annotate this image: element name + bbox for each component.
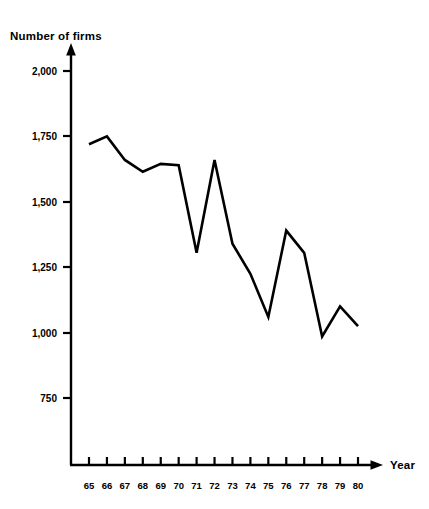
x-tick-label: 80 [353, 480, 364, 491]
x-tick-label: 68 [138, 480, 149, 491]
x-tick-label: 75 [263, 480, 274, 491]
x-tick-label: 67 [120, 480, 131, 491]
y-axis [66, 43, 76, 465]
data-series-line [89, 136, 358, 336]
x-tick-label: 76 [281, 480, 292, 491]
y-tick-label: 1,000 [32, 328, 57, 339]
x-tick-label: 77 [299, 480, 310, 491]
x-tick-label: 69 [155, 480, 166, 491]
chart-canvas: Number of firms Year 2,000 1,750 1,500 1… [0, 0, 429, 509]
x-axis [70, 460, 383, 470]
x-tick-label: 73 [227, 480, 238, 491]
x-tick-label: 74 [245, 480, 256, 491]
x-tick-label: 72 [209, 480, 220, 491]
line-chart: Number of firms Year 2,000 1,750 1,500 1… [0, 0, 429, 509]
y-axis-title: Number of firms [10, 30, 102, 42]
y-axis-arrow-icon [66, 43, 76, 56]
x-tick-label: 79 [335, 480, 346, 491]
x-axis-title: Year [390, 459, 415, 471]
y-tick-label: 750 [40, 393, 57, 404]
x-axis-arrow-icon [371, 460, 384, 470]
y-tick-group: 2,000 1,750 1,500 1,250 1,000 750 [32, 66, 71, 404]
x-tick-label: 65 [84, 480, 95, 491]
x-tick-label: 78 [317, 480, 328, 491]
y-tick-label: 1,750 [32, 131, 57, 142]
x-tick-label: 66 [102, 480, 113, 491]
x-tick-label: 71 [191, 480, 202, 491]
y-tick-label: 1,250 [32, 262, 57, 273]
x-tick-group: 65666768697071727374757677787980 [84, 457, 364, 491]
y-tick-label: 2,000 [32, 66, 57, 77]
y-tick-label: 1,500 [32, 197, 57, 208]
x-tick-label: 70 [173, 480, 184, 491]
